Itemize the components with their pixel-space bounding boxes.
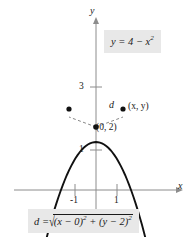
distance-formula-callout: d =√(x − 0)2 + (y − 2)2	[28, 209, 139, 233]
equation-exponent: 2	[150, 34, 154, 42]
equation-equals: =	[118, 36, 125, 47]
x-axis-label: x	[178, 181, 182, 191]
x-tick-label-1: 1	[114, 196, 119, 206]
formula-term2-exponent: 2	[128, 214, 132, 222]
y-tick-label-3: 3	[79, 82, 84, 92]
formula-term2: (y − 2)	[99, 216, 128, 227]
formula-lhs: d	[34, 216, 39, 227]
fixed-point-label: (0, 2)	[96, 123, 117, 133]
point-on-curve-left	[66, 106, 71, 111]
formula-term1-exponent: 2	[83, 214, 87, 222]
distance-label: d	[109, 100, 114, 110]
formula-equals: =	[42, 216, 49, 227]
formula-plus: +	[89, 216, 96, 227]
parabola-distance-figure: y x 3 1 -1 1 d (x, y) (0, 2) y = 4 − x2 …	[0, 0, 190, 237]
equation-lhs: y	[111, 36, 116, 47]
formula-term1: (x − 0)	[54, 216, 83, 227]
distance-segment-left	[69, 117, 96, 127]
point-on-curve-right	[120, 106, 125, 111]
y-tick-label-1: 1	[79, 145, 84, 155]
plot-area	[0, 0, 190, 237]
point-on-curve-label: (x, y)	[128, 102, 149, 112]
equation-rhs: 4 − x	[128, 36, 150, 47]
y-axis-label: y	[90, 6, 94, 16]
y-axis-arrowhead	[93, 17, 99, 24]
equation-callout: y = 4 − x2	[104, 30, 161, 53]
radical-sign: √	[49, 215, 55, 229]
x-tick-label-neg1: -1	[70, 196, 78, 206]
